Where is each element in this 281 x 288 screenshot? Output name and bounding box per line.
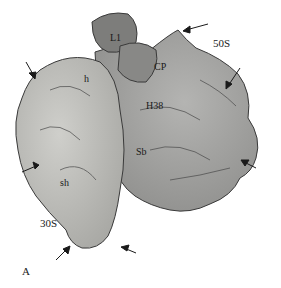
panel-label: A [22,266,30,277]
label-sh: sh [60,178,69,188]
central-protuberance [118,43,157,82]
label-l1: L1 [110,33,121,43]
label-50s: 50S [213,38,230,49]
label-sb: Sb [136,147,147,157]
ribosome-figure: L1 CP h H38 Sb sh 50S 30S A [0,0,281,288]
ribosome-density-map [0,0,281,288]
label-h38: H38 [146,101,163,111]
label-30s: 30S [40,218,57,229]
label-cp: CP [154,62,166,72]
label-h: h [84,74,89,84]
